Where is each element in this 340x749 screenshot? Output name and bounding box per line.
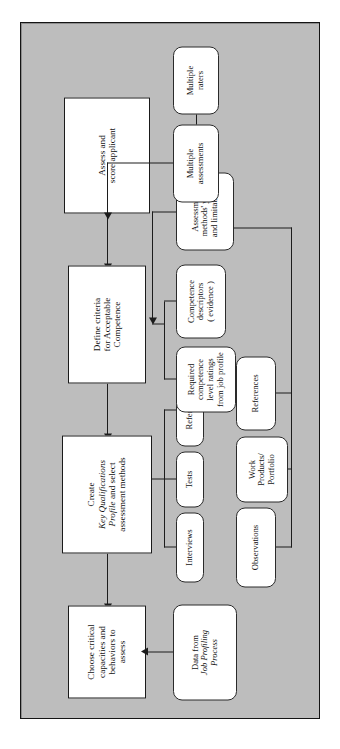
- step3-line1: Define criteria: [92, 297, 102, 350]
- method-a-1-label: Tests: [184, 470, 194, 488]
- criteria-0-line4: from job profile: [215, 352, 225, 407]
- step4-line1: Assess and: [97, 135, 107, 176]
- connector-step1-step2: [107, 553, 108, 605]
- connector-observations-busB: [276, 546, 292, 547]
- jobprofiling-line2: Job Profiling: [199, 629, 209, 674]
- method-b-1-line3: Portfolio: [266, 454, 276, 485]
- method-a-0-label: Interviews: [184, 529, 194, 565]
- jobprofiling-line3: Process: [209, 639, 219, 666]
- connector-interviews-busA: [164, 546, 176, 547]
- flowchart-stage: Choose critical capacities and behaviors…: [21, 23, 319, 718]
- connector-assessments-riser: [161, 162, 173, 163]
- diagram-page: Choose critical capacities and behaviors…: [0, 0, 340, 749]
- node-create-key-qualifications-profile[interactable]: Create Key Qualifications Profile and se…: [62, 435, 152, 553]
- node-choose-critical-capacities[interactable]: Choose critical capacities and behaviors…: [68, 605, 146, 698]
- arrowhead-jobprofiling-step1: [141, 648, 148, 656]
- node-define-criteria-acceptable-competence[interactable]: Define criteria for Acceptable Competenc…: [68, 265, 146, 383]
- criteria-1-line2: descriptors: [195, 282, 205, 320]
- step1-line2: capacities and: [97, 626, 107, 678]
- bus-method-column-b: [291, 227, 292, 547]
- criteria-1-line3: ( evidence ): [205, 281, 215, 322]
- node-multiple-assessments[interactable]: Multiple assessments: [173, 124, 219, 202]
- connector-scoring-vert: [107, 162, 161, 163]
- arrowhead-yield-to-step3: [149, 317, 157, 324]
- step4-line2: score applicant: [107, 127, 117, 182]
- scoring-0-line1: Multiple: [185, 148, 195, 178]
- criteria-1-line1: Competence: [186, 280, 196, 323]
- diagram-frame: Choose critical capacities and behaviors…: [20, 22, 320, 719]
- connector-step2-step3: [107, 383, 108, 435]
- arrowhead-scoring-to-step4: [104, 212, 112, 219]
- node-method-references-b[interactable]: References: [236, 356, 276, 430]
- step3-line2: for Acceptable: [102, 297, 112, 351]
- method-b-1-line2: Products/: [256, 453, 266, 485]
- node-method-work-products-portfolio[interactable]: Work Products/ Portfolio: [236, 436, 288, 502]
- connector-scoring-to-step4: [107, 162, 108, 213]
- step1-line4: assess: [117, 640, 127, 662]
- criteria-0-line1: Required: [186, 363, 196, 395]
- connector-jobprofiling-step1: [146, 651, 173, 652]
- bus-method-column-a: [164, 409, 165, 547]
- method-b-1-line1: Work: [247, 460, 257, 479]
- node-multiple-raters[interactable]: Multiple raters: [173, 46, 219, 114]
- method-b-0-line1: Observations: [250, 524, 260, 569]
- connector-referencesB-busB: [276, 392, 292, 393]
- step2-line3-rest: and select: [107, 462, 117, 501]
- step2-line1: Create: [86, 482, 96, 506]
- connector-yield-riser: [152, 211, 176, 212]
- connector-step3-step4: [107, 213, 108, 265]
- criteria-0-line2: competence: [195, 358, 205, 399]
- step2-line2: Key Qualifications: [97, 459, 107, 528]
- connector-yield-to-step3: [152, 211, 153, 318]
- scoring-1-line1: Multiple: [185, 65, 195, 95]
- scoring-1-line2: raters: [195, 70, 205, 89]
- method-b-2-line1: References: [250, 374, 260, 412]
- node-method-interviews[interactable]: Interviews: [176, 512, 204, 582]
- node-data-from-job-profiling-process[interactable]: Data from Job Profiling Process: [173, 604, 237, 700]
- jobprofiling-line1: Data from: [190, 634, 200, 669]
- criteria-0-line3: level ratings: [205, 358, 215, 400]
- step2-line3-italic: Profile: [107, 501, 117, 526]
- step1-line1: Choose critical: [86, 624, 96, 679]
- step1-line3: behaviors to: [107, 629, 117, 674]
- node-method-observations[interactable]: Observations: [236, 507, 276, 587]
- node-required-competence-level-ratings[interactable]: Required competence level ratings from j…: [176, 346, 236, 412]
- step2-line4: assessment methods: [117, 457, 127, 531]
- node-competence-descriptors-evidence[interactable]: Competence descriptors ( evidence ): [176, 264, 226, 338]
- connector-required-ratings-bus: [164, 378, 176, 379]
- step3-line3: Competence: [112, 301, 122, 347]
- scoring-0-line2: assessments: [195, 142, 205, 184]
- connector-raters-to-assessments: [196, 114, 197, 124]
- bus-criteria-inputs: [164, 301, 165, 379]
- connector-descriptors-bus: [164, 300, 176, 301]
- connector-referencesA-busA: [164, 409, 176, 410]
- node-method-tests[interactable]: Tests: [176, 451, 204, 507]
